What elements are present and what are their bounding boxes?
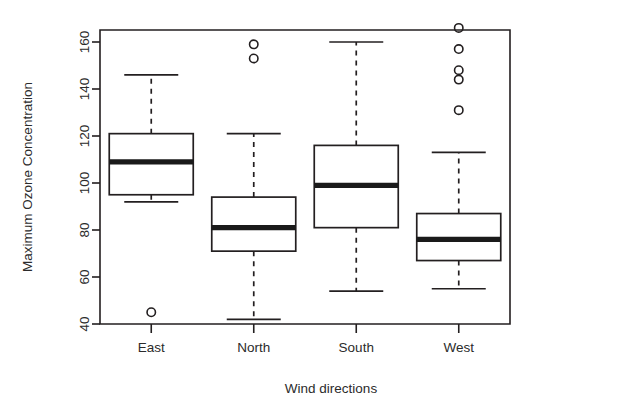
x-tick-label-south: South (339, 340, 374, 355)
y-tick-label-40: 40 (77, 316, 92, 331)
y-tick-label-60: 60 (77, 269, 92, 284)
x-tick-label-west: West (443, 340, 474, 355)
box-group-east (109, 75, 193, 317)
outlier-west-4 (455, 106, 463, 114)
boxplot-series (109, 24, 501, 320)
boxplot-canvas: 406080100120140160 EastNorthSouthWest Wi… (0, 0, 632, 418)
box-north (212, 197, 296, 251)
x-tick-label-north: North (237, 340, 270, 355)
outlier-west-1 (455, 45, 463, 53)
x-tick-label-group: EastNorthSouthWest (138, 340, 475, 355)
outlier-east-0 (147, 308, 155, 316)
outlier-west-3 (455, 75, 463, 83)
box-group-north (212, 40, 296, 319)
y-axis-ticks (92, 42, 100, 324)
boxplot-figure: 406080100120140160 EastNorthSouthWest Wi… (0, 0, 632, 418)
box-group-south (314, 42, 398, 291)
x-axis-ticks (151, 324, 459, 333)
outlier-west-2 (455, 66, 463, 74)
y-tick-label-80: 80 (77, 222, 92, 237)
y-tick-label-100: 100 (77, 172, 92, 195)
y-tick-label-120: 120 (77, 125, 92, 148)
x-axis-title: Wind directions (285, 381, 378, 396)
y-tick-label-160: 160 (77, 31, 92, 54)
outlier-north-1 (250, 54, 258, 62)
x-tick-label-east: East (138, 340, 165, 355)
y-axis-title: Maximum Ozone Concentration (20, 82, 35, 272)
outlier-west-0 (455, 24, 463, 32)
box-group-west (417, 24, 501, 289)
y-tick-label-140: 140 (77, 78, 92, 101)
y-tick-label-group: 406080100120140160 (77, 31, 92, 332)
outlier-north-0 (250, 40, 258, 48)
